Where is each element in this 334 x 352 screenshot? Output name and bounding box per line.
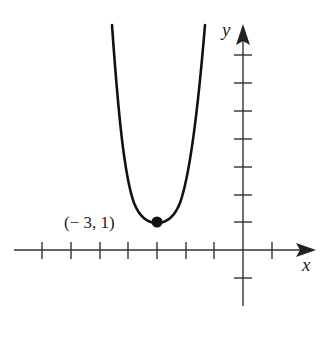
x-axis-label: x xyxy=(301,254,311,275)
minimum-point-marker xyxy=(152,217,163,228)
minimum-point-label: (− 3, 1) xyxy=(64,213,115,232)
function-curve xyxy=(112,25,205,223)
graph-figure: x y (− 3, 1) xyxy=(0,0,334,352)
y-axis-label: y xyxy=(220,19,231,40)
y-axis: y xyxy=(220,19,252,306)
x-axis: x xyxy=(14,242,316,275)
